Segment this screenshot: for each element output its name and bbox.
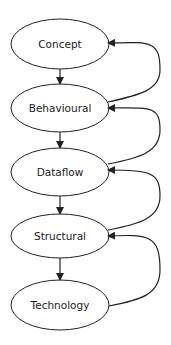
- node-concept: Concept: [11, 19, 109, 69]
- node-label: Behavioural: [29, 102, 92, 114]
- arrow-behavioural-to-concept: [108, 43, 160, 102]
- arrow-technology-to-structural: [108, 235, 160, 306]
- node-label: Structural: [34, 230, 86, 242]
- node-dataflow: Dataflow: [11, 148, 109, 196]
- node-behavioural: Behavioural: [11, 84, 109, 132]
- node-label: Concept: [38, 38, 81, 50]
- node-technology: Technology: [11, 280, 109, 330]
- feedback-arrows: [108, 43, 160, 306]
- arrow-dataflow-to-behavioural: [108, 108, 160, 164]
- node-label: Technology: [30, 299, 90, 311]
- node-structural: Structural: [11, 214, 109, 258]
- diagram-canvas: Concept Behavioural Dataflow Structural …: [0, 0, 171, 345]
- node-label: Dataflow: [37, 166, 84, 178]
- arrow-structural-to-dataflow: [108, 170, 160, 230]
